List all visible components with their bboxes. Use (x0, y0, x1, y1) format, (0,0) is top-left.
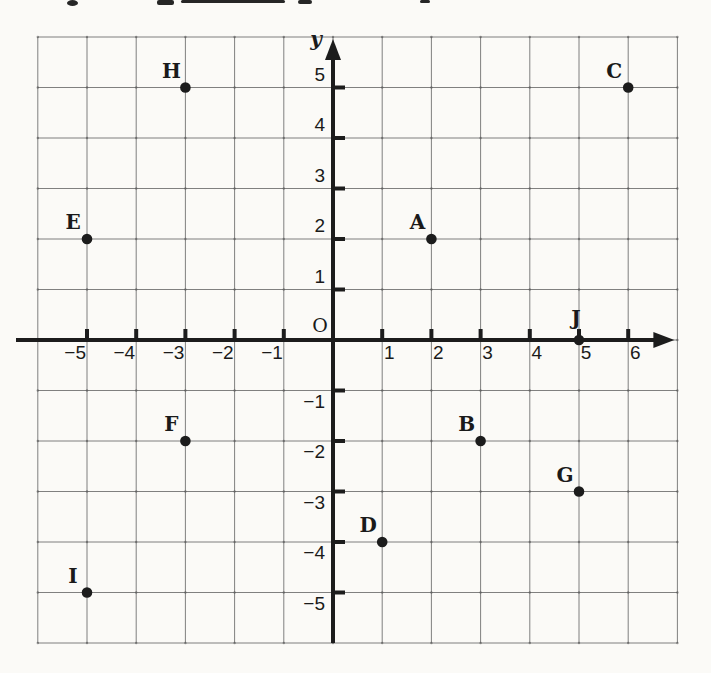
data-point-A (426, 234, 437, 245)
y-tick-label: 4 (314, 114, 325, 135)
data-point-I (82, 587, 93, 598)
x-tick-label: 3 (482, 342, 493, 363)
origin-label: O (312, 314, 328, 336)
data-point-D (377, 537, 388, 548)
x-tick-label: −3 (163, 342, 185, 363)
data-point-F (180, 436, 191, 447)
data-point-H (180, 82, 191, 93)
y-tick-label: −3 (303, 492, 325, 513)
x-tick-label: −2 (212, 342, 234, 363)
point-label-B: B (458, 412, 475, 436)
y-tick-label: −5 (303, 593, 325, 614)
y-axis-label: y (309, 27, 323, 51)
y-tick-label: 5 (314, 64, 325, 85)
point-label-I: I (68, 564, 77, 588)
point-label-A: A (409, 210, 426, 234)
x-tick-label: 2 (433, 342, 444, 363)
point-label-G: G (556, 463, 573, 487)
y-tick-label: −4 (303, 542, 325, 563)
point-label-F: F (164, 412, 178, 436)
y-tick-label: −2 (303, 441, 325, 462)
x-tick-label: 1 (384, 342, 395, 363)
point-label-D: D (360, 513, 377, 537)
coordinate-plane: −5−4−3−2−1123456−5−4−3−2−112345OyABCDEFG… (0, 0, 711, 673)
data-point-G (574, 486, 585, 497)
x-tick-label: 6 (630, 342, 641, 363)
x-axis-arrowhead (653, 332, 674, 348)
data-point-C (623, 82, 634, 93)
x-tick-label: −4 (114, 342, 136, 363)
y-axis-arrowhead (325, 39, 341, 60)
x-tick-label: −5 (64, 342, 86, 363)
data-point-E (82, 234, 93, 245)
point-label-C: C (606, 59, 622, 83)
y-tick-label: 3 (314, 165, 325, 186)
x-tick-label: 5 (581, 342, 592, 363)
x-tick-label: 4 (532, 342, 543, 363)
y-tick-label: −1 (303, 391, 325, 412)
point-label-E: E (65, 210, 80, 234)
y-tick-label: 1 (314, 266, 325, 287)
x-tick-label: −1 (261, 342, 283, 363)
point-label-J: J (569, 306, 580, 330)
data-point-B (475, 436, 486, 447)
worksheet-page: −5−4−3−2−1123456−5−4−3−2−112345OyABCDEFG… (0, 0, 711, 673)
data-point-J (574, 335, 585, 346)
y-tick-label: 2 (314, 215, 325, 236)
point-label-H: H (162, 59, 181, 83)
